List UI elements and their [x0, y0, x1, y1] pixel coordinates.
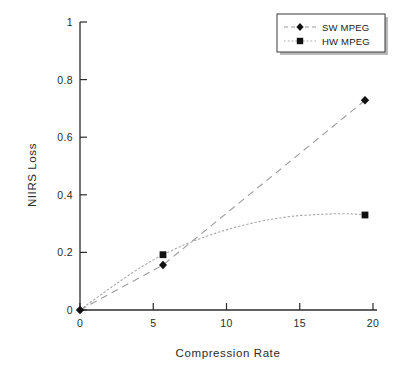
legend-label-sw-mpeg: SW MPEG	[322, 22, 369, 33]
legend-label-hw-mpeg: HW MPEG	[322, 36, 370, 47]
legend: SW MPEG HW MPEG	[277, 14, 388, 55]
y-tick-label-0.6: 0.6	[57, 131, 73, 143]
y-tick-label-0.4: 0.4	[57, 189, 73, 201]
x-axis-title: Compression Rate	[176, 347, 281, 359]
y-tick-label-0: 0	[67, 304, 73, 316]
legend-square-marker-icon	[297, 38, 303, 44]
chart-background	[0, 0, 400, 374]
y-tick-label-1: 1	[67, 16, 73, 28]
y-tick-label-0.8: 0.8	[57, 74, 73, 86]
niirs-loss-chart: 0 0.2 0.4 0.6 0.8 1 NIIRS Loss 0 5 10 15…	[0, 0, 400, 374]
x-tick-label-20: 20	[367, 317, 379, 329]
x-tick-label-15: 15	[294, 317, 306, 329]
y-tick-label-0.2: 0.2	[57, 246, 73, 258]
x-tick-label-5: 5	[150, 317, 156, 329]
chart-svg: 0 0.2 0.4 0.6 0.8 1 NIIRS Loss 0 5 10 15…	[0, 0, 400, 374]
data-point-hw-19.5	[362, 212, 369, 219]
data-point-hw-5	[160, 251, 167, 258]
x-tick-label-0: 0	[77, 317, 83, 329]
y-axis-title: NIIRS Loss	[26, 143, 38, 207]
x-tick-label-10: 10	[220, 317, 232, 329]
